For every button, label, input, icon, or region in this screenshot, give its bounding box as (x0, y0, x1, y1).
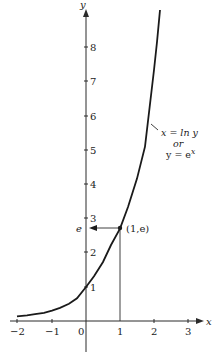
y-tick-label: 8 (90, 42, 96, 53)
exp-curve (17, 10, 160, 316)
x-tick-label: 3 (185, 326, 191, 337)
y-tick-label: 3 (90, 213, 96, 224)
y-tick-label: 1 (90, 282, 96, 293)
y-tick-label: 5 (90, 145, 96, 156)
x-axis-label: x (206, 316, 212, 327)
x-tick-label: 2 (151, 326, 157, 337)
y-tick-label: 6 (90, 111, 96, 122)
equation-exp: y = ex (165, 147, 196, 160)
point-label: (1,e) (126, 223, 149, 234)
y-tick-label: 4 (90, 179, 96, 190)
equation-ln: x = ln y (161, 127, 199, 138)
y-tick-label: 7 (90, 76, 96, 87)
y-axis-label: y (79, 0, 86, 10)
x-tick-label: −2 (10, 326, 25, 337)
e-label: e (76, 223, 82, 234)
x-tick-label: −1 (45, 326, 60, 337)
x-tick-label: 0 (78, 326, 84, 337)
exponential-chart: x y −2 −1 0 1 2 3 1 2 3 4 5 6 7 8 (0, 0, 216, 360)
y-tick-label: 2 (90, 247, 96, 258)
point-marker (118, 226, 122, 230)
annotation-pointer (151, 124, 158, 130)
x-ticks: −2 −1 0 1 2 3 (10, 319, 191, 337)
equation-or: or (173, 138, 185, 149)
x-axis-arrow-icon (196, 318, 204, 324)
arrow-left-icon (89, 225, 97, 231)
y-axis-arrow-icon (83, 9, 89, 17)
x-tick-label: 1 (117, 326, 123, 337)
